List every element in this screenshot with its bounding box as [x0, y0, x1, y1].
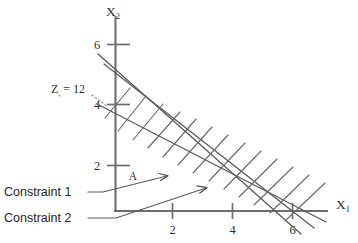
x-axis-title: X1	[336, 197, 350, 214]
hatch-tick	[118, 96, 146, 131]
hatch-tick	[133, 104, 163, 140]
constraint-1-leader	[88, 188, 206, 218]
y-axis-title: X2	[106, 4, 120, 21]
x-axis-ticks: 2 4 6	[169, 203, 295, 237]
x-axis-title-text: X	[336, 197, 346, 212]
hatch-tick	[285, 183, 325, 221]
linear-programming-figure: 6 4 2 2 4 6 X2 X1	[0, 0, 358, 243]
y-tick-label-6: 6	[94, 38, 100, 52]
graph-canvas: 6 4 2 2 4 6 X2 X1	[0, 0, 358, 243]
axes-group	[114, 16, 328, 212]
objective-label-z: Z	[51, 82, 58, 96]
x-tick-label-4: 4	[229, 223, 236, 237]
hatch-tick	[209, 143, 245, 181]
hatch-tick	[270, 175, 309, 213]
feasible-region-hatching	[105, 88, 325, 221]
objective-label: Z, = 12	[51, 82, 85, 98]
y-axis-title-subscript: 2	[116, 11, 120, 21]
objective-label-equals: = 12	[63, 82, 85, 96]
callout-constraint-2: Constraint 1	[4, 174, 168, 200]
vertex-label-a: A	[129, 170, 138, 182]
hatch-tick	[105, 88, 130, 118]
constraint-2-label: Constraint 1	[4, 185, 71, 199]
constraint-1-line	[97, 104, 326, 222]
y-tick-label-2: 2	[94, 159, 100, 173]
x-tick-label-2: 2	[169, 223, 175, 237]
constraint-2-line	[98, 54, 301, 234]
hatch-tick	[239, 159, 277, 197]
constraint-2-leader	[88, 176, 167, 192]
y-axis-title-text: X	[106, 4, 116, 19]
constraint-1-label: Constraint 2	[4, 211, 71, 225]
x-axis-title-subscript: 1	[346, 204, 350, 214]
hatch-tick	[178, 127, 212, 165]
objective-z-line	[104, 64, 314, 228]
